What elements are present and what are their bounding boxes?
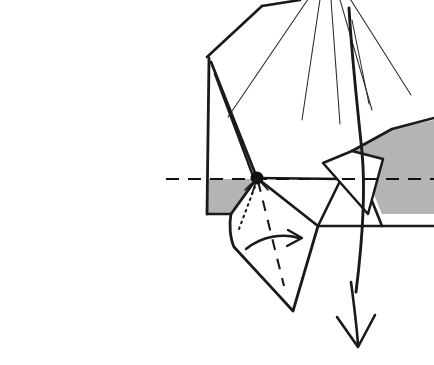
origami-figure-root: Origami folding step diagram: [0, 0, 434, 365]
origami-diagram-canvas: [0, 0, 434, 365]
left-outer-edge: [207, 58, 209, 214]
